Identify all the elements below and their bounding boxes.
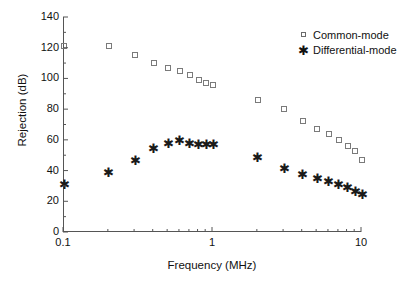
data-point-common-mode xyxy=(187,72,193,78)
data-point-common-mode xyxy=(177,68,183,74)
data-point-differential-mode: ✱ xyxy=(207,138,220,151)
data-point-common-mode xyxy=(106,43,112,49)
x-tick-label: 1 xyxy=(209,237,215,248)
legend-label-differential-mode: Differential-mode xyxy=(310,43,397,58)
data-point-common-mode xyxy=(203,80,209,86)
legend-item-differential-mode: ✱ Differential-mode xyxy=(296,43,397,58)
plot-area: ✱✱✱✱✱✱✱✱✱✱✱✱✱✱✱✱✱✱✱ Common-mode ✱ Differ… xyxy=(63,17,361,232)
data-point-differential-mode: ✱ xyxy=(183,136,196,149)
x-tick-label: 10 xyxy=(355,237,367,248)
data-point-common-mode xyxy=(255,97,261,103)
data-point-common-mode xyxy=(326,131,332,137)
chart-legend: Common-mode ✱ Differential-mode xyxy=(296,28,397,58)
data-point-differential-mode: ✱ xyxy=(58,178,71,191)
data-point-common-mode xyxy=(151,60,157,66)
legend-item-common-mode: Common-mode xyxy=(296,28,397,43)
data-point-differential-mode: ✱ xyxy=(356,187,369,200)
star-icon: ✱ xyxy=(296,43,310,58)
data-point-differential-mode: ✱ xyxy=(341,181,354,194)
data-point-differential-mode: ✱ xyxy=(173,133,186,146)
legend-label-common-mode: Common-mode xyxy=(310,28,389,43)
data-point-common-mode xyxy=(281,106,287,112)
y-tick-label: 20 xyxy=(19,195,59,206)
data-point-differential-mode: ✱ xyxy=(322,175,335,188)
data-point-common-mode xyxy=(336,137,342,143)
data-point-common-mode xyxy=(345,143,351,149)
data-point-differential-mode: ✱ xyxy=(311,172,324,185)
data-point-differential-mode: ✱ xyxy=(192,138,205,151)
data-point-differential-mode: ✱ xyxy=(200,138,213,151)
data-point-common-mode xyxy=(210,82,216,88)
x-axis-title: Frequency (MHz) xyxy=(63,259,361,271)
x-tick-label: 0.1 xyxy=(55,237,70,248)
open-square-icon xyxy=(296,28,310,43)
y-tick-label: 140 xyxy=(19,11,59,22)
data-point-common-mode xyxy=(165,65,171,71)
data-point-differential-mode: ✱ xyxy=(251,150,264,163)
data-point-differential-mode: ✱ xyxy=(349,184,362,197)
data-point-differential-mode: ✱ xyxy=(332,178,345,191)
data-point-differential-mode: ✱ xyxy=(162,136,175,149)
data-point-common-mode xyxy=(352,148,358,154)
data-point-common-mode xyxy=(196,77,202,83)
data-point-differential-mode: ✱ xyxy=(129,153,142,166)
data-point-common-mode xyxy=(314,126,320,132)
data-point-differential-mode: ✱ xyxy=(296,167,309,180)
y-tick-label: 0 xyxy=(19,226,59,237)
data-point-common-mode xyxy=(300,118,306,124)
data-point-common-mode xyxy=(132,52,138,58)
data-point-differential-mode: ✱ xyxy=(278,161,291,174)
data-point-differential-mode: ✱ xyxy=(147,141,160,154)
data-point-common-mode xyxy=(61,43,67,49)
data-point-common-mode xyxy=(359,157,365,163)
y-axis-title: Rejection (dB) xyxy=(16,40,28,180)
data-point-differential-mode: ✱ xyxy=(102,166,115,179)
